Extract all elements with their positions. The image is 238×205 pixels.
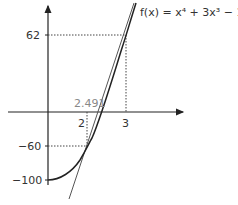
diagram-canvas: f(x) = x⁴ + 3x³ − 100 62 −60 −100 2 3 2.… (0, 0, 238, 205)
y-tick-label-62: 62 (26, 29, 40, 42)
function-label: f(x) = x⁴ + 3x³ − 100 (140, 6, 238, 19)
y-tick-label-minus-60: −60 (18, 140, 41, 153)
x-tick-label-3: 3 (122, 117, 129, 130)
x-tick-label-2: 2 (78, 117, 85, 130)
function-curve (48, 3, 136, 180)
y-tick-label-minus-100: −100 (12, 174, 42, 187)
root-annotation: 2.491 (74, 97, 106, 110)
